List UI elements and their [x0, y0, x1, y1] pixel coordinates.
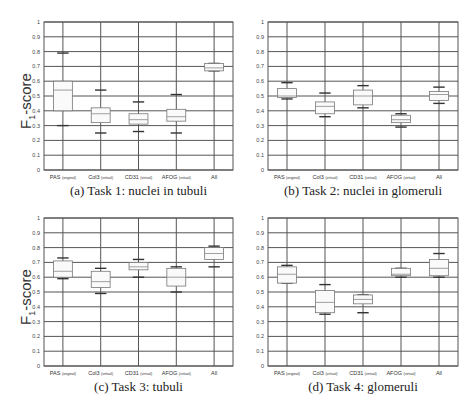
caption-b: (b) Task 2: nuclei in glomeruli: [268, 183, 458, 199]
x-tick-label: AFOG(virtual): [162, 370, 191, 376]
caption-d: (d) Task 4: glomeruli: [268, 379, 458, 395]
y-tick-label: 1: [37, 19, 40, 25]
y-tick-label: 0.5: [256, 93, 264, 99]
x-tick-label: All: [436, 370, 442, 376]
x-tick-label: PAS(original): [50, 174, 76, 180]
y-tick-label: 0.7: [256, 259, 264, 265]
y-tick-label: 0.7: [256, 63, 264, 69]
y-tick-label: 0.2: [32, 333, 40, 339]
y-tick-label: 0.5: [256, 289, 264, 295]
y-tick-label: 0.1: [256, 348, 264, 354]
x-tick-label: All: [211, 174, 217, 180]
y-tick-label: 0.3: [256, 123, 264, 129]
x-tick-label: PAS(original): [274, 174, 300, 180]
y-tick-label: 0.8: [32, 245, 40, 251]
y-tick-label: 0.3: [256, 319, 264, 325]
x-tick-label: CD31(virtual): [125, 174, 153, 180]
x-tick-label: CD31(virtual): [349, 370, 377, 376]
x-tick-label: All: [211, 370, 217, 376]
box-3: [392, 268, 411, 277]
caption-a: (a) Task 1: nuclei in tubuli: [44, 183, 233, 199]
x-tick-label: CD31(virtual): [125, 370, 153, 376]
x-tick-label: AFOG(virtual): [386, 174, 415, 180]
y-tick-label: 0.8: [256, 245, 264, 251]
y-tick-label: 0.9: [256, 230, 264, 236]
x-tick-label: Col3(virtual): [313, 370, 338, 376]
y-tick-label: 0: [37, 167, 40, 173]
chart-panel-a: 00.10.20.30.40.50.60.70.80.91PAS(origina…: [0, 0, 237, 206]
y-tick-label: 0.1: [32, 348, 40, 354]
x-tick-label: AFOG(virtual): [386, 370, 415, 376]
y-tick-label: 0.9: [32, 230, 40, 236]
box-plot-b: 00.10.20.30.40.50.60.70.80.91PAS(origina…: [237, 0, 475, 206]
y-tick-label: 0.4: [256, 108, 264, 114]
y-tick-label: 1: [37, 215, 40, 221]
box-4: [205, 63, 224, 70]
chart-panel-b: 00.10.20.30.40.50.60.70.80.91PAS(origina…: [237, 0, 475, 206]
x-tick-label: PAS(original): [274, 370, 300, 376]
caption-c: (c) Task 3: tubuli: [44, 379, 233, 395]
x-tick-label: Col3(virtual): [88, 370, 113, 376]
y-tick-label: 1: [261, 19, 264, 25]
y-tick-label: 1: [261, 215, 264, 221]
x-tick-label: PAS(original): [50, 370, 76, 376]
y-tick-label: 0.8: [32, 49, 40, 55]
y-tick-label: 0.9: [32, 34, 40, 40]
x-tick-label: All: [436, 174, 442, 180]
x-tick-label: CD31(virtual): [349, 174, 377, 180]
y-tick-label: 0.4: [256, 304, 264, 310]
y-tick-label: 0.2: [32, 137, 40, 143]
y-tick-label: 0.6: [256, 274, 264, 280]
y-tick-label: 0.1: [256, 152, 264, 158]
x-tick-label: AFOG(virtual): [162, 174, 191, 180]
y-axis-label: F1-score: [17, 59, 37, 129]
x-tick-label: Col3(virtual): [313, 174, 338, 180]
y-tick-label: 0.2: [256, 137, 264, 143]
box-0: [278, 265, 297, 283]
y-axis-label: F1-score: [17, 255, 37, 325]
x-tick-label: Col3(virtual): [88, 174, 113, 180]
y-tick-label: 0: [261, 363, 264, 369]
box-0: [53, 258, 72, 279]
y-tick-label: 0.8: [256, 49, 264, 55]
y-tick-label: 0: [261, 167, 264, 173]
y-tick-label: 0: [37, 363, 40, 369]
y-tick-label: 0.9: [256, 34, 264, 40]
y-tick-label: 0.2: [256, 333, 264, 339]
chart-panel-c: 00.10.20.30.40.50.60.70.80.91PAS(origina…: [0, 206, 237, 412]
chart-panel-d: 00.10.20.30.40.50.60.70.80.91PAS(origina…: [237, 206, 475, 412]
y-tick-label: 0.1: [32, 152, 40, 158]
y-tick-label: 0.6: [256, 78, 264, 84]
